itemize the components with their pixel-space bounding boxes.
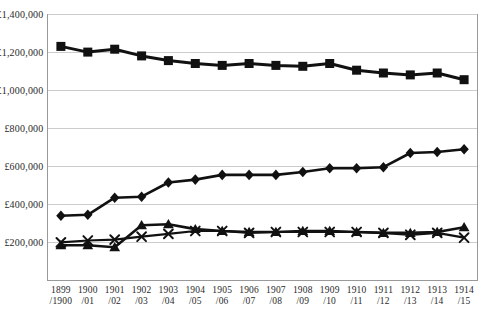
series-diamond xyxy=(56,144,469,221)
y-axis-tick-label: £1,200,000 xyxy=(0,47,44,58)
x-axis-tick-label: 1906 xyxy=(239,285,259,295)
x-axis-tick-label: /01 xyxy=(81,296,94,306)
square-marker xyxy=(56,42,65,51)
diamond-marker xyxy=(56,211,65,222)
series-square xyxy=(56,42,468,84)
x-axis-tick-label: /08 xyxy=(270,296,283,306)
diamond-marker xyxy=(191,174,200,185)
diamond-marker xyxy=(137,191,146,202)
x-axis-tick-label: /05 xyxy=(189,296,202,306)
series-diamond-line xyxy=(61,149,464,216)
diamond-marker xyxy=(83,210,92,221)
square-marker xyxy=(298,62,307,71)
diamond-marker xyxy=(164,177,173,188)
x-axis-tick-label: 1903 xyxy=(158,285,178,295)
line-chart-svg: £200,000£400,000£600,000£800,000£1,000,0… xyxy=(0,0,502,314)
x-axis-tick-label: 1908 xyxy=(293,285,313,295)
x-axis-tick-label: 1904 xyxy=(185,285,205,295)
diamond-marker xyxy=(379,162,388,173)
x-axis-tick-label: /04 xyxy=(162,296,175,306)
square-marker xyxy=(218,61,227,70)
square-marker xyxy=(271,61,280,70)
y-axis-tick-label: £800,000 xyxy=(4,123,43,134)
y-axis-tick-label: £1,000,000 xyxy=(0,85,44,96)
diamond-marker xyxy=(433,147,442,158)
series-triangle-line xyxy=(61,224,464,247)
y-axis-tick-label: £1,400,000 xyxy=(0,9,44,20)
y-axis-tick-label: £400,000 xyxy=(4,199,43,210)
x-axis-tick-label: 1913 xyxy=(427,285,447,295)
y-axis-labels: £200,000£400,000£600,000£800,000£1,000,0… xyxy=(0,9,44,248)
x-axis-tick-label: /10 xyxy=(323,296,336,306)
square-marker xyxy=(460,75,469,84)
diamond-marker xyxy=(325,163,334,174)
diamond-marker xyxy=(218,170,227,181)
square-marker xyxy=(433,69,442,78)
diamond-marker xyxy=(110,192,119,203)
x-axis-tick-label: 1909 xyxy=(320,285,340,295)
x-axis-tick-label: 1914 xyxy=(454,285,474,295)
square-marker xyxy=(137,51,146,60)
diamond-marker xyxy=(271,170,280,181)
diamond-marker xyxy=(352,163,361,174)
y-axis-tick-label: £600,000 xyxy=(4,161,43,172)
square-marker xyxy=(110,45,119,54)
x-axis-tick-label: /14 xyxy=(431,296,444,306)
diamond-marker xyxy=(406,148,415,159)
x-axis-tick-label: /03 xyxy=(135,296,148,306)
square-marker xyxy=(245,59,254,68)
x-axis-tick-label: /06 xyxy=(216,296,229,306)
x-axis-tick-label: /11 xyxy=(350,296,362,306)
x-axis-tick-label: 1912 xyxy=(400,285,420,295)
diamond-marker xyxy=(298,167,307,178)
diamond-marker xyxy=(459,144,468,155)
x-axis-tick-label: /15 xyxy=(458,296,471,306)
square-marker xyxy=(379,69,388,78)
x-axis-labels: 1899/19001900/011901/021902/031903/04190… xyxy=(50,285,474,306)
square-marker xyxy=(164,56,173,65)
x-axis-tick-label: 1910 xyxy=(347,285,367,295)
x-axis-tick-label: 1911 xyxy=(374,285,393,295)
x-axis-tick-label: /1900 xyxy=(50,296,73,306)
x-axis-tick-label: /13 xyxy=(404,296,417,306)
y-axis-tick-label: £200,000 xyxy=(4,237,43,248)
x-axis-tick-label: /07 xyxy=(243,296,256,306)
x-axis-tick-label: 1899 xyxy=(51,285,71,295)
x-axis-tick-label: 1900 xyxy=(78,285,98,295)
series-square-line xyxy=(61,46,464,79)
square-marker xyxy=(352,66,361,75)
square-marker xyxy=(325,59,334,68)
x-axis-tick-label: 1907 xyxy=(266,285,286,295)
square-marker xyxy=(406,70,415,79)
diamond-marker xyxy=(244,170,253,181)
x-axis-tick-label: 1905 xyxy=(212,285,232,295)
x-axis-tick-label: /09 xyxy=(296,296,309,306)
square-marker xyxy=(191,59,200,68)
x-axis-tick-label: 1901 xyxy=(105,285,125,295)
chart-area: £200,000£400,000£600,000£800,000£1,000,0… xyxy=(0,0,502,314)
x-axis-tick-label: /12 xyxy=(377,296,390,306)
square-marker xyxy=(83,48,92,57)
x-axis-tick-label: /02 xyxy=(108,296,121,306)
x-axis-tick-label: 1902 xyxy=(132,285,152,295)
